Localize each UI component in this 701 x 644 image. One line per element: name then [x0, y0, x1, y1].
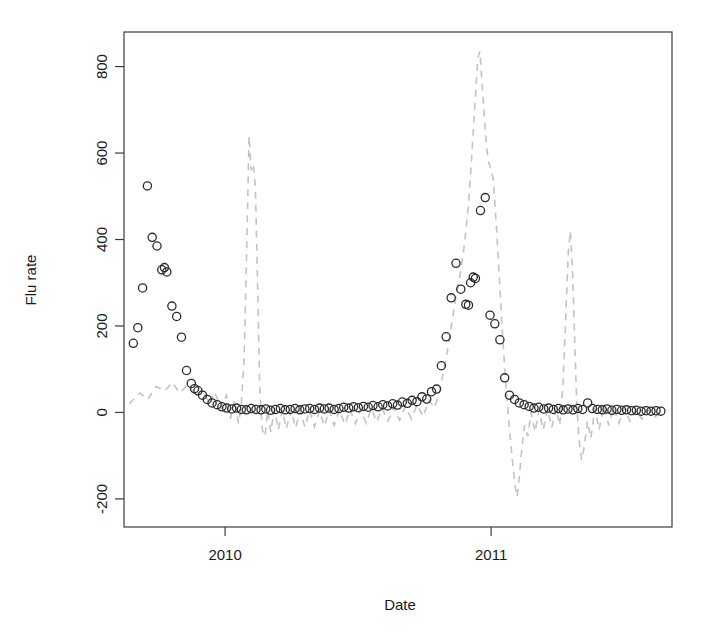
- y-tick-label: 200: [93, 313, 110, 338]
- y-tick-label: 0: [93, 408, 110, 416]
- data-point: [447, 294, 455, 302]
- data-point: [213, 401, 221, 409]
- y-tick-label: 400: [93, 227, 110, 252]
- x-axis-title: Date: [384, 596, 416, 613]
- data-point: [496, 336, 504, 344]
- y-tick-label: 800: [93, 54, 110, 79]
- data-point: [129, 339, 137, 347]
- plot-frame: [124, 32, 672, 527]
- data-point: [374, 403, 382, 411]
- data-point: [535, 403, 543, 411]
- data-point: [427, 388, 435, 396]
- data-point: [491, 320, 499, 328]
- data-point: [481, 193, 489, 201]
- data-point: [168, 302, 176, 310]
- model-fit-line-group: [129, 51, 661, 496]
- data-point: [418, 393, 426, 401]
- data-point: [413, 398, 421, 406]
- x-tick-label: 2011: [475, 546, 507, 563]
- data-point: [384, 402, 392, 410]
- data-point: [158, 266, 166, 274]
- data-point: [139, 284, 147, 292]
- y-tick-label: -200: [93, 484, 110, 514]
- model-fit-line: [129, 51, 661, 496]
- flu-rate-scatter-figure: Flu rate Date -2000200400600800 20102011: [0, 0, 701, 644]
- x-axis-title-group: Date: [384, 596, 416, 613]
- data-point: [476, 206, 484, 214]
- data-point: [364, 403, 372, 411]
- data-point: [148, 233, 156, 241]
- observed-points-group: [129, 182, 665, 415]
- data-point: [486, 311, 494, 319]
- x-axis-ticks: 20102011: [208, 527, 507, 563]
- data-point: [153, 242, 161, 250]
- data-point: [182, 366, 190, 374]
- data-point: [657, 407, 665, 415]
- data-point: [177, 333, 185, 341]
- data-point: [143, 182, 151, 190]
- y-axis-ticks: -2000200400600800: [93, 54, 124, 514]
- data-point: [525, 402, 533, 410]
- plot-canvas: Flu rate Date -2000200400600800 20102011: [0, 0, 701, 644]
- y-axis-title: Flu rate: [22, 255, 39, 306]
- data-point: [584, 399, 592, 407]
- y-tick-label: 600: [93, 141, 110, 166]
- y-axis-title-group: Flu rate: [22, 255, 39, 306]
- data-point: [452, 259, 460, 267]
- data-point: [520, 401, 528, 409]
- data-point: [173, 312, 181, 320]
- data-point: [423, 395, 431, 403]
- data-point: [134, 324, 142, 332]
- x-tick-label: 2010: [208, 546, 241, 563]
